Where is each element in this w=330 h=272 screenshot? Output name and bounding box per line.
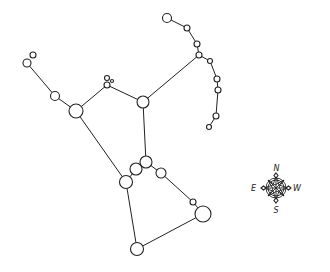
- constellation-stars: [23, 14, 221, 256]
- constellation-edge: [195, 204, 198, 208]
- star-icon: [156, 168, 166, 178]
- constellation-edge: [165, 176, 191, 200]
- constellation-edge: [130, 174, 132, 177]
- star-icon: [214, 76, 220, 82]
- constellation-edge: [202, 56, 208, 59]
- star-icon: [23, 59, 31, 67]
- constellation-edge: [171, 20, 184, 27]
- star-icon: [131, 243, 144, 256]
- constellation-edge: [110, 86, 138, 99]
- constellation-edges: [30, 20, 218, 246]
- star-icon: [184, 25, 190, 31]
- star-icon: [69, 104, 83, 118]
- constellation-edge: [127, 188, 136, 242]
- star-icon: [130, 163, 142, 175]
- constellation-edge: [80, 117, 122, 177]
- compass-label-west: W: [293, 184, 302, 193]
- constellation-edge: [148, 57, 197, 98]
- constellation-edge: [151, 166, 157, 170]
- compass-label-east: E: [251, 184, 257, 193]
- constellation-edge: [189, 31, 196, 42]
- star-icon: [137, 96, 149, 108]
- constellation-edge: [81, 87, 104, 107]
- compass-label-south: S: [274, 206, 279, 215]
- constellation-edge: [216, 93, 218, 113]
- constellation-edge: [198, 47, 199, 52]
- constellation-edge: [211, 63, 216, 76]
- star-icon: [120, 176, 133, 189]
- constellation-edge: [210, 119, 214, 125]
- star-icon: [215, 87, 221, 93]
- star-icon: [208, 59, 213, 64]
- constellation-edge: [30, 66, 53, 93]
- constellation-edge: [143, 218, 196, 246]
- star-icon: [194, 41, 200, 47]
- star-icon: [195, 206, 211, 222]
- star-icon: [104, 82, 110, 88]
- star-icon: [196, 52, 202, 58]
- star-icon: [207, 125, 212, 130]
- star-icon: [51, 92, 60, 101]
- star-icon: [111, 80, 114, 83]
- star-icon: [105, 76, 110, 81]
- star-icon: [163, 14, 172, 23]
- constellation-diagram: N S E W: [0, 0, 330, 272]
- star-icon: [30, 52, 36, 58]
- star-icon: [213, 113, 219, 119]
- compass-label-north: N: [274, 164, 280, 173]
- compass-rose-icon: N S E W: [251, 164, 302, 215]
- constellation-edge: [143, 108, 145, 156]
- star-icon: [190, 199, 196, 205]
- constellation-edge: [59, 99, 71, 107]
